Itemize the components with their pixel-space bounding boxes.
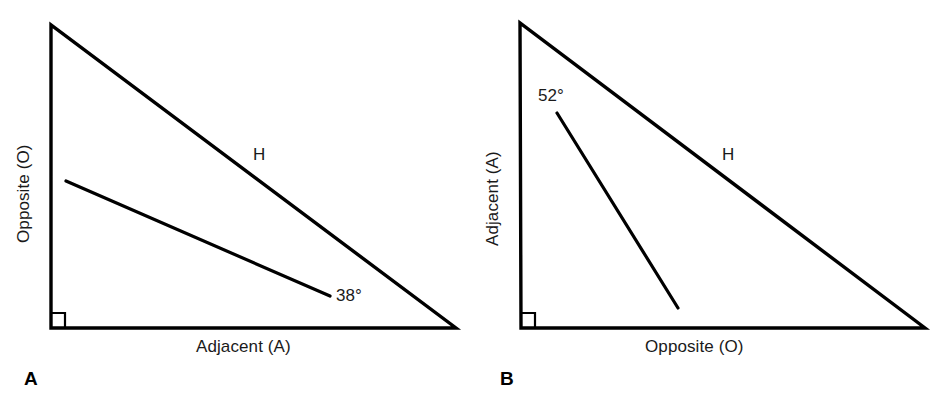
panel-a: Opposite (O) Adjacent (A) H 38° A: [0, 0, 470, 402]
triangle-outline-a: [51, 25, 456, 328]
panel-b-x-axis-label: Opposite (O): [645, 338, 744, 355]
panel-a-id-label: A: [24, 369, 38, 388]
triangle-outline-b: [520, 23, 925, 328]
panel-a-x-axis-label: Adjacent (A): [196, 338, 291, 355]
panel-b-id-label: B: [500, 369, 514, 388]
panel-b-hypotenuse-label: H: [722, 146, 734, 163]
panel-b-angle-label: 52°: [538, 87, 564, 104]
right-angle-marker-b: [521, 313, 535, 328]
right-angle-marker-a: [51, 313, 65, 328]
figure-root: Opposite (O) Adjacent (A) H 38° A Adjace…: [0, 0, 937, 402]
panel-a-angle-label: 38°: [336, 287, 362, 304]
panel-b-y-axis-label: Adjacent (A): [484, 151, 501, 246]
panel-a-y-axis-label: Opposite (O): [15, 144, 32, 243]
panel-a-hypotenuse-label: H: [253, 146, 265, 163]
angle-leader-line-b: [557, 113, 678, 308]
panel-b: Adjacent (A) Opposite (O) H 52° B: [470, 0, 937, 402]
angle-leader-line-a: [66, 181, 330, 296]
